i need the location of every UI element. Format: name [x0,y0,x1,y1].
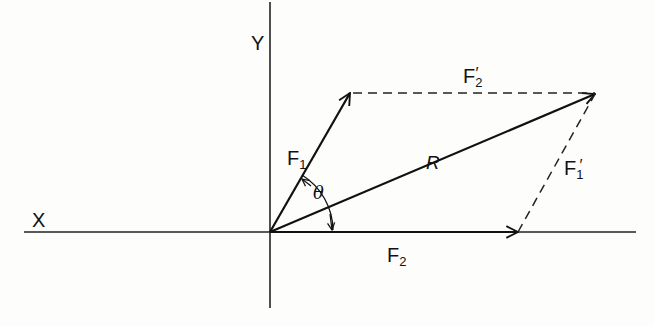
f1-letter: F [287,147,299,169]
r-letter: R [426,152,440,173]
f2p-letter: F [463,65,475,87]
x-label-text: X [32,209,45,231]
theta-label: θ [313,184,324,202]
f2-letter: F [387,244,399,266]
f2-subscript: 2 [399,254,406,269]
f1-prime-label: F1′ [564,158,586,181]
y-label-text: Y [251,32,264,54]
f1p-letter: F [564,157,576,179]
f1-label: F1 [287,148,306,171]
x-axis-label: X [32,210,45,230]
vector-f1 [270,93,350,232]
f1-subscript: 1 [299,157,306,172]
theta-symbol: θ [313,182,324,203]
f2-label: F2 [387,245,406,268]
force-diagram: X Y F1 F2 R F2′ F1′ θ [0,0,654,326]
y-axis-label: Y [251,33,264,53]
diagram-graphics [0,0,654,326]
resultant-label: R [426,153,440,172]
f2-prime-label: F2′ [463,66,485,89]
